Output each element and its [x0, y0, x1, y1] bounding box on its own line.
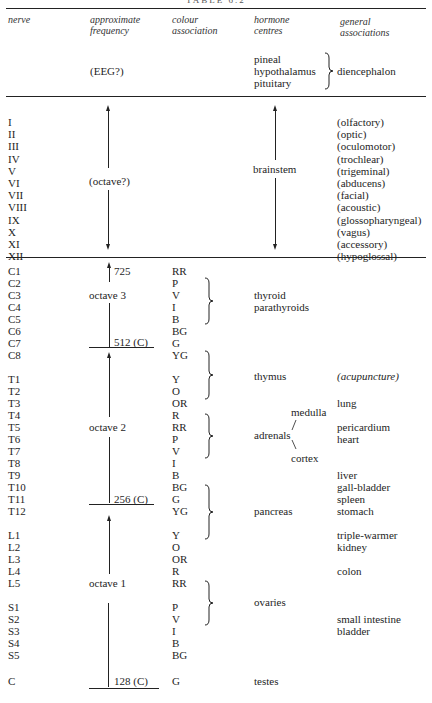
colour-association: G [172, 337, 180, 349]
eeg-label: (EEG?) [90, 65, 124, 77]
top-rule [6, 8, 426, 9]
spinal-nerve-label: T3 [8, 397, 20, 409]
brainstem-line-bottom [275, 178, 276, 245]
spinal-nerve-label: T4 [8, 409, 20, 421]
spinal-nerve-label: T6 [8, 433, 20, 445]
cranial-nerve-label: V [8, 165, 16, 177]
octave-question-label: (octave?) [89, 175, 130, 187]
colour-association: RR [172, 265, 187, 277]
spinal-nerve-label: L1 [8, 529, 20, 541]
cranial-general-association: (optic) [337, 128, 366, 140]
spinal-nerve-label: S5 [8, 649, 20, 661]
cranial-nerve-label: VII [8, 189, 23, 201]
general-association: small intestine [337, 613, 401, 625]
colour-association: RR [172, 421, 187, 433]
hormone-hypothalamus: hypothalamus [254, 65, 316, 77]
spinal-nerve-label: T10 [8, 481, 26, 493]
cranial-nerve-label: X [8, 226, 16, 238]
colour-association: P [172, 277, 178, 289]
brace-pancreas [204, 484, 214, 540]
section-rule-1 [6, 96, 426, 97]
hormone-pituitary: pituitary [254, 77, 291, 89]
colour-association: B [172, 313, 179, 325]
general-association: gall-bladder [337, 481, 390, 493]
diencephalon-label: diencephalon [337, 65, 396, 77]
hormone-thymus: thymus [254, 370, 286, 382]
cranial-nerve-label: VI [8, 177, 20, 189]
table-title: TABLE 6.2 [186, 0, 246, 5]
spinal-nerve-label: T2 [8, 385, 20, 397]
octave3-line-bottom [109, 303, 110, 347]
colour-association: I [172, 301, 176, 313]
octave-divider-512 [89, 347, 154, 348]
spinal-nerve-label: T8 [8, 457, 20, 469]
brace-thymus [204, 350, 214, 400]
freq-725: 725 [114, 265, 131, 277]
octave2-line-top [109, 357, 110, 417]
spinal-nerve-label: C8 [8, 349, 21, 361]
colour-association: B [172, 469, 179, 481]
spinal-nerve-label: C4 [8, 301, 21, 313]
octave1-label: octave 1 [89, 577, 126, 589]
cranial-frequency-line-bottom [108, 190, 109, 245]
cranial-nerve-label: III [8, 140, 19, 152]
spinal-nerve-label: C6 [8, 325, 21, 337]
hormone-parathyroids: parathyroids [254, 301, 309, 313]
colour-association: O [172, 541, 180, 553]
arrow-down-icon [106, 244, 110, 250]
cranial-nerve-label: VIII [8, 201, 27, 213]
spinal-nerve-label: C7 [8, 337, 21, 349]
cranial-general-association: (facial) [337, 189, 369, 201]
adrenals-branch-lines [290, 418, 302, 454]
hormone-pineal: pineal [254, 53, 281, 65]
colour-association: G [172, 493, 180, 505]
cranial-nerve-label: IV [8, 153, 20, 165]
spinal-nerve-label: C5 [8, 313, 21, 325]
colour-association: YG [172, 349, 188, 361]
colour-association: BG [172, 325, 187, 337]
section-rule-2 [6, 257, 426, 258]
octave3-label: octave 3 [89, 289, 126, 301]
header-hormone-1: hormone [254, 14, 290, 25]
colour-association: P [172, 433, 178, 445]
spinal-nerve-label: C2 [8, 277, 21, 289]
general-association: bladder [337, 625, 370, 637]
hormone-adrenals: adrenals [254, 429, 291, 441]
spinal-nerve-label: T5 [8, 421, 20, 433]
header-nerve: nerve [8, 14, 30, 25]
colour-association: P [172, 601, 178, 613]
header-hormone-2: centres [254, 25, 283, 36]
octave-divider-128 [89, 688, 159, 689]
brace-ovaries [204, 580, 214, 626]
spinal-nerve-label: S2 [8, 613, 20, 625]
header-general-2: associations [340, 27, 389, 38]
spinal-nerve-label: C1 [8, 265, 21, 277]
colour-association: YG [172, 505, 188, 517]
cranial-nerve-label: II [8, 128, 15, 140]
colour-association: G [172, 675, 180, 687]
cranial-general-association: (accessory) [337, 238, 387, 250]
header-frequency-1: approximate [90, 14, 140, 25]
spinal-nerve-label: L2 [8, 541, 20, 553]
general-association: kidney [337, 541, 367, 553]
spinal-nerve-label: L4 [8, 565, 20, 577]
header-colour-2: association [172, 25, 218, 36]
colour-association: OR [172, 553, 187, 565]
colour-association: BG [172, 481, 187, 493]
spinal-nerve-label: C3 [8, 289, 21, 301]
general-association: lung [337, 397, 357, 409]
octave2-label: octave 2 [89, 421, 126, 433]
header-general-1: general [340, 16, 371, 27]
spinal-nerve-label: L5 [8, 577, 20, 589]
brace-diencephalon [324, 52, 334, 90]
cranial-general-association: (olfactory) [337, 116, 384, 128]
spinal-nerve-label: S4 [8, 637, 20, 649]
general-association: heart [337, 433, 359, 445]
general-association: pericardium [337, 421, 390, 433]
colour-association: BG [172, 649, 187, 661]
cranial-nerve-label: I [8, 116, 12, 128]
octave-divider-256 [89, 504, 154, 505]
general-association: (acupuncture) [337, 370, 399, 382]
cranial-general-association: (oculomotor) [337, 140, 395, 152]
colour-association: R [172, 565, 179, 577]
